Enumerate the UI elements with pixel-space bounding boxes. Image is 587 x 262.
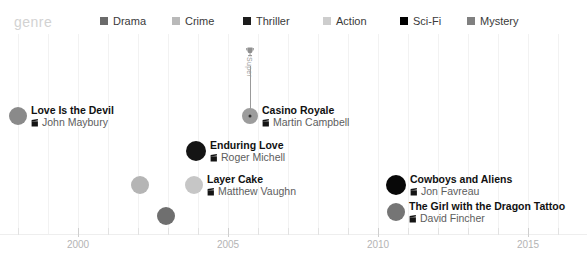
movie-label: Casino RoyaleMartin Campbell: [262, 105, 349, 129]
movie-dot[interactable]: [185, 176, 203, 194]
movie-director-row: Roger Michell: [210, 152, 285, 164]
gridline: [288, 34, 289, 234]
timeline-chart: genre DramaCrimeThrillerActionSci-FiMyst…: [0, 0, 587, 262]
axis-tick: [78, 228, 79, 237]
legend-swatch-icon: [172, 17, 180, 25]
legend-item-label: Drama: [113, 15, 146, 27]
clapperboard-icon: [262, 118, 270, 127]
gridline: [348, 34, 349, 234]
gridline: [18, 34, 19, 234]
movie-dot[interactable]: [157, 207, 175, 225]
axis-tick: [408, 228, 409, 235]
axis-tick-label: 2010: [367, 239, 389, 250]
legend-swatch-icon: [323, 17, 331, 25]
axis-tick: [348, 228, 349, 235]
axis-tick: [18, 228, 19, 235]
movie-dot[interactable]: [9, 107, 27, 125]
movie-title: Enduring Love: [210, 140, 285, 152]
movie-dot[interactable]: [387, 203, 405, 221]
gridline: [78, 34, 79, 234]
axis-tick: [378, 228, 379, 237]
legend-swatch-icon: [400, 17, 408, 25]
movie-director-row: Martin Campbell: [262, 117, 349, 129]
axis-tick: [468, 228, 469, 235]
axis-tick: [108, 228, 109, 235]
movie-director-row: Matthew Vaughn: [207, 186, 296, 198]
axis-tick-label: 2000: [67, 239, 89, 250]
clapperboard-icon: [31, 118, 39, 127]
gridline: [198, 34, 199, 234]
movie-title: Love Is the Devil: [31, 105, 114, 117]
gridline: [378, 34, 379, 234]
movie-title: Cowboys and Aliens: [410, 174, 512, 186]
movie-director: Roger Michell: [221, 152, 285, 164]
movie-director-row: David Fincher: [409, 213, 565, 225]
axis-tick: [498, 228, 499, 235]
axis-tick: [228, 228, 229, 237]
axis-tick: [528, 228, 529, 237]
axis-tick: [288, 228, 289, 235]
legend-item-label: Thriller: [256, 15, 290, 27]
legend-title: genre: [14, 14, 52, 30]
gridline: [138, 34, 139, 234]
legend-item-label: Crime: [185, 15, 214, 27]
trophy-icon: [246, 44, 255, 55]
legend-item-crime[interactable]: Crime: [172, 15, 214, 27]
movie-director: David Fincher: [420, 213, 485, 225]
gridline: [108, 34, 109, 234]
movie-director-row: John Maybury: [31, 117, 114, 129]
axis-tick: [318, 228, 319, 235]
movie-label: Love Is the DevilJohn Maybury: [31, 105, 114, 129]
movie-dot-center: [249, 115, 252, 118]
movie-title: The Girl with the Dragon Tattoo: [409, 201, 565, 213]
legend-item-label: Action: [336, 15, 367, 27]
legend-item-label: Mystery: [480, 15, 519, 27]
axis-tick: [258, 228, 259, 235]
axis-tick: [138, 228, 139, 235]
clapperboard-icon: [210, 153, 218, 162]
movie-dot[interactable]: [131, 176, 149, 194]
gridline: [228, 34, 229, 234]
legend-item-mystery[interactable]: Mystery: [467, 15, 519, 27]
movie-title: Casino Royale: [262, 105, 349, 117]
movie-label: Cowboys and AliensJon Favreau: [410, 174, 512, 198]
movie-label: Enduring LoveRoger Michell: [210, 140, 285, 164]
movie-title: Layer Cake: [207, 174, 296, 186]
axis-tick-label: 2005: [217, 239, 239, 250]
movie-dot[interactable]: [386, 175, 406, 195]
genre-legend: genre DramaCrimeThrillerActionSci-FiMyst…: [0, 0, 587, 40]
axis-tick: [168, 228, 169, 235]
movie-label: Layer CakeMatthew Vaughn: [207, 174, 296, 198]
movie-label: The Girl with the Dragon TattooDavid Fin…: [409, 201, 565, 225]
legend-item-sci-fi[interactable]: Sci-Fi: [400, 15, 441, 27]
clapperboard-icon: [409, 214, 417, 223]
time-axis: 2000200520102015: [0, 228, 587, 262]
movie-director: Martin Campbell: [273, 117, 349, 129]
legend-item-drama[interactable]: Drama: [100, 15, 146, 27]
legend-swatch-icon: [243, 17, 251, 25]
annotation-label: Super: [246, 57, 253, 77]
axis-tick: [198, 228, 199, 235]
axis-tick-label: 2015: [517, 239, 539, 250]
axis-tick: [438, 228, 439, 235]
gridline: [318, 34, 319, 234]
movie-director: Matthew Vaughn: [218, 186, 296, 198]
legend-item-thriller[interactable]: Thriller: [243, 15, 290, 27]
axis-tick: [558, 228, 559, 235]
movie-dot[interactable]: [186, 141, 206, 161]
clapperboard-icon: [410, 187, 418, 196]
clapperboard-icon: [207, 187, 215, 196]
gridline: [168, 34, 169, 234]
legend-swatch-icon: [467, 17, 475, 25]
legend-item-action[interactable]: Action: [323, 15, 367, 27]
movie-director: John Maybury: [42, 117, 108, 129]
legend-item-label: Sci-Fi: [413, 15, 441, 27]
gridline: [48, 34, 49, 234]
movie-director-row: Jon Favreau: [410, 186, 512, 198]
movie-director: Jon Favreau: [421, 186, 479, 198]
legend-swatch-icon: [100, 17, 108, 25]
gridline: [258, 34, 259, 234]
